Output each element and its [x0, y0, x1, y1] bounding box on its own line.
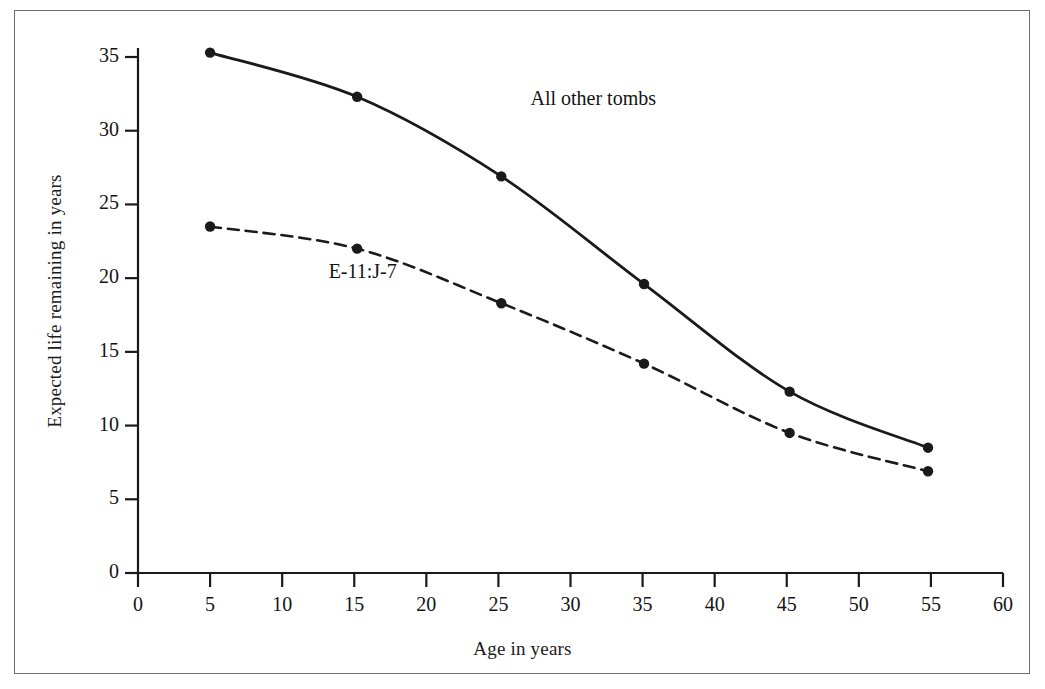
- x-axis-tick-label: 60: [981, 593, 1025, 616]
- x-axis-tick-label: 15: [332, 593, 376, 616]
- x-axis-tick-label: 45: [765, 593, 809, 616]
- x-axis-tick-label: 10: [260, 593, 304, 616]
- y-axis-tick-label: 10: [75, 413, 119, 436]
- data-point-marker: [496, 298, 506, 308]
- data-point-marker: [639, 279, 649, 289]
- x-axis-tick-label: 5: [188, 593, 232, 616]
- y-axis-title: Expected life remaining in years: [44, 174, 66, 427]
- y-axis-tick-label: 35: [75, 44, 119, 67]
- y-axis-ticks: [125, 57, 138, 573]
- plot-area: [0, 0, 1045, 689]
- y-axis-tick-label: 20: [75, 265, 119, 288]
- data-point-marker: [352, 92, 362, 102]
- data-point-marker: [205, 47, 215, 57]
- series-line-0: [210, 53, 928, 448]
- figure-page: 05101520253035 051015202530354045505560 …: [0, 0, 1045, 689]
- line-chart: 05101520253035 051015202530354045505560 …: [0, 0, 1045, 689]
- x-axis-tick-label: 35: [621, 593, 665, 616]
- data-point-marker: [205, 221, 215, 231]
- series-label-0: All other tombs: [530, 87, 656, 110]
- series-curves: [210, 53, 928, 472]
- y-axis-tick-label: 25: [75, 191, 119, 214]
- series-markers: [205, 47, 933, 476]
- y-axis-tick-label: 30: [75, 118, 119, 141]
- data-point-marker: [923, 466, 933, 476]
- y-axis-tick-label: 15: [75, 339, 119, 362]
- y-axis-title-wrapper: Expected life remaining in years: [44, 0, 66, 611]
- x-axis-tick-label: 40: [693, 593, 737, 616]
- x-axis-title: Age in years: [0, 638, 1045, 660]
- data-point-marker: [784, 386, 794, 396]
- axis-lines: [138, 48, 1003, 573]
- y-axis-tick-label: 0: [75, 560, 119, 583]
- data-point-marker: [639, 358, 649, 368]
- y-axis-tick-label: 5: [75, 486, 119, 509]
- data-point-marker: [352, 243, 362, 253]
- x-axis-tick-label: 30: [549, 593, 593, 616]
- series-label-1: E-11:J-7: [329, 260, 397, 283]
- x-axis-tick-label: 50: [837, 593, 881, 616]
- x-axis-tick-label: 20: [404, 593, 448, 616]
- x-axis-tick-label: 55: [909, 593, 953, 616]
- series-line-1: [210, 227, 928, 472]
- x-axis-ticks: [138, 573, 1003, 587]
- x-axis-tick-label: 0: [116, 593, 160, 616]
- data-point-marker: [784, 428, 794, 438]
- x-axis-tick-label: 25: [476, 593, 520, 616]
- data-point-marker: [923, 442, 933, 452]
- data-point-marker: [496, 171, 506, 181]
